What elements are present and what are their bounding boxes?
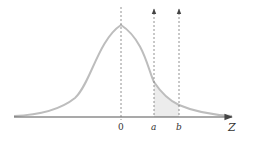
origin-label: 0 [118, 122, 124, 132]
z-axis-label: Z [227, 121, 236, 134]
normal-distribution-diagram: 0 a b Z [0, 0, 253, 143]
a-label: a [151, 122, 156, 132]
normal-curve [14, 25, 232, 116]
diagram-svg: 0 a b Z [0, 0, 253, 143]
b-label: b [176, 122, 182, 132]
